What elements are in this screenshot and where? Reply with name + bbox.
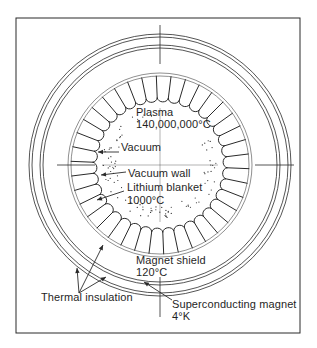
- label-thermal-insulation: Thermal insulation: [41, 291, 133, 303]
- label-magnet-shield: Magnet shield: [136, 254, 206, 266]
- label-vacuum: Vacuum: [121, 141, 161, 153]
- label-vacuum-wall: Vacuum wall: [128, 167, 191, 179]
- label-magnet-shield-temperature: 120°C: [136, 266, 167, 278]
- label-superconducting-magnet: Superconducting magnet: [172, 298, 297, 310]
- label-plasma-temperature: 140,000,000°C: [136, 118, 211, 130]
- label-magnet-temperature: 4°K: [172, 310, 190, 322]
- fusion-reactor-diagram: Plasma 140,000,000°C Vacuum Vacuum wall …: [0, 0, 317, 348]
- label-lithium-temperature: 1000°C: [127, 194, 164, 206]
- label-lithium-blanket: Lithium blanket: [127, 181, 203, 193]
- label-plasma: Plasma: [136, 106, 173, 118]
